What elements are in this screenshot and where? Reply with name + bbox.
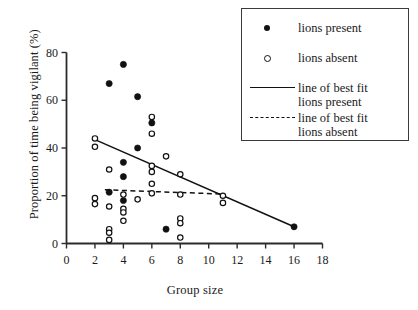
- x-tick-label: 14: [260, 254, 272, 266]
- point-lions-absent: [121, 192, 126, 197]
- y-tick-label: 60: [34, 94, 58, 106]
- legend-key-dashed-line-icon: [242, 110, 298, 126]
- point-lions-absent: [106, 230, 111, 235]
- legend-box: lions present lions absent line of best …: [241, 8, 409, 141]
- x-tick-label: 12: [231, 254, 243, 266]
- x-tick-label: 2: [92, 254, 98, 266]
- point-lions-absent: [106, 167, 111, 172]
- point-lions-absent: [92, 136, 97, 141]
- x-tick-label: 8: [177, 254, 183, 266]
- x-tick-label: 0: [64, 254, 70, 266]
- legend-label-lions-absent: lions absent: [298, 51, 357, 65]
- y-tick-label: 40: [34, 142, 58, 154]
- legend-key-open-circle-icon: [242, 50, 298, 66]
- point-lions-absent: [92, 195, 97, 200]
- point-lions-absent: [178, 235, 183, 240]
- x-tick-label: 6: [149, 254, 155, 266]
- point-lions-absent: [149, 131, 154, 136]
- point-lions-absent: [121, 210, 126, 215]
- legend-key-filled-circle-icon: [242, 20, 298, 36]
- point-lions-absent: [149, 169, 154, 174]
- scatter-plot-figure: Proportion of time being vigilant (%) Gr…: [0, 0, 418, 310]
- point-lions-absent: [149, 181, 154, 186]
- point-lions-absent: [220, 200, 225, 205]
- x-tick-label: 10: [203, 254, 215, 266]
- point-lions-absent: [163, 154, 168, 159]
- x-tick-label: 18: [317, 254, 329, 266]
- point-lions-absent: [220, 193, 225, 198]
- y-tick-label: 0: [34, 238, 58, 250]
- legend-label-fit-absent-line2: lions absent: [298, 125, 357, 139]
- x-tick-label: 16: [288, 254, 300, 266]
- point-lions-present: [106, 80, 112, 86]
- point-lions-absent: [178, 221, 183, 226]
- y-tick-label: 20: [34, 190, 58, 202]
- point-lions-absent: [106, 237, 111, 242]
- legend-label-fit-present: line of best fit: [298, 81, 368, 95]
- legend-item-fit-absent: line of best fit: [242, 110, 408, 126]
- point-lions-absent: [106, 204, 111, 209]
- point-lions-present: [106, 189, 112, 195]
- point-lions-absent: [178, 192, 183, 197]
- point-lions-absent: [92, 201, 97, 206]
- point-lions-present: [120, 174, 126, 180]
- point-lions-present: [149, 120, 155, 126]
- y-tick-label: 80: [34, 47, 58, 59]
- legend-item-lions-present: lions present: [242, 20, 408, 36]
- point-lions-absent: [149, 191, 154, 196]
- x-tick-label: 4: [120, 254, 126, 266]
- legend-item-lions-absent: lions absent: [242, 50, 408, 66]
- point-lions-absent: [121, 218, 126, 223]
- point-lions-absent: [178, 172, 183, 177]
- legend-label-fit-present-line2: lions present: [298, 95, 362, 109]
- point-lions-present: [163, 226, 169, 232]
- point-lions-present: [120, 61, 126, 67]
- point-lions-present: [135, 94, 141, 100]
- point-lions-absent: [149, 114, 154, 119]
- point-lions-absent: [92, 144, 97, 149]
- legend-item-fit-present: line of best fit: [242, 80, 408, 96]
- x-axis-title: Group size: [66, 283, 324, 298]
- legend-label-lions-present: lions present: [298, 21, 362, 35]
- point-lions-absent: [149, 163, 154, 168]
- point-lions-present: [120, 197, 126, 203]
- point-lions-present: [135, 145, 141, 151]
- point-lions-present: [291, 224, 297, 230]
- point-lions-absent: [135, 197, 140, 202]
- legend-label-fit-absent: line of best fit: [298, 111, 368, 125]
- point-lions-present: [120, 159, 126, 165]
- legend-key-solid-line-icon: [242, 80, 298, 96]
